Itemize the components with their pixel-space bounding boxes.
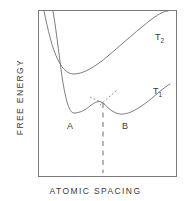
curve-label-t1: T1 (153, 86, 162, 98)
minimum-b-label: B (122, 121, 128, 131)
curve-t2 (44, 11, 168, 74)
free-energy-figure: FREE ENERGY ATOMIC SPACING T2 T1 A B (0, 0, 191, 201)
minimum-a-label: A (67, 121, 73, 131)
curve-label-t2: T2 (155, 32, 164, 44)
curve-label-t1-subscript: 1 (159, 91, 163, 98)
curve-label-t2-subscript: 2 (161, 37, 165, 44)
x-axis-label: ATOMIC SPACING (0, 186, 191, 196)
curve-t1 (53, 11, 170, 114)
y-axis-label: FREE ENERGY (15, 49, 25, 145)
plot-canvas (0, 0, 191, 201)
